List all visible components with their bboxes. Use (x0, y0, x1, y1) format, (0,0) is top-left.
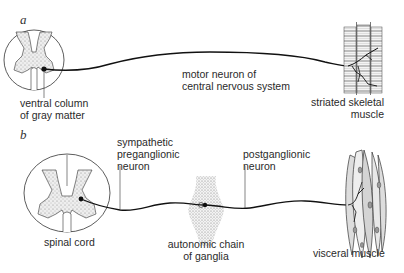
label-spinal-cord: spinal cord (44, 236, 95, 248)
label-visceral-muscle: visceral muscle (313, 247, 385, 259)
panel-label-b: b (20, 127, 27, 143)
neuron-diagram (0, 0, 404, 273)
label-ventral-column: ventral column of gray matter (20, 97, 88, 121)
label-autonomic-ganglia: autonomic chain of ganglia (156, 238, 256, 262)
autonomic-ganglion (188, 176, 224, 246)
spinal-cord-cross-section-a (4, 30, 64, 98)
spinal-cord-cross-section-b (24, 154, 110, 232)
postganglionic-axon (205, 201, 348, 209)
label-motor-neuron: motor neuron of central nervous system (182, 68, 290, 92)
label-postganglionic-neuron: postganglionic neuron (243, 148, 310, 172)
panel-label-a: a (20, 12, 27, 28)
visceral-muscle (346, 150, 386, 258)
label-striated-skeletal-muscle: striated skeletal muscle (305, 96, 384, 120)
label-preganglionic-neuron: sympathetic preganglionic neuron (117, 136, 179, 172)
striated-skeletal-muscle (344, 22, 382, 95)
